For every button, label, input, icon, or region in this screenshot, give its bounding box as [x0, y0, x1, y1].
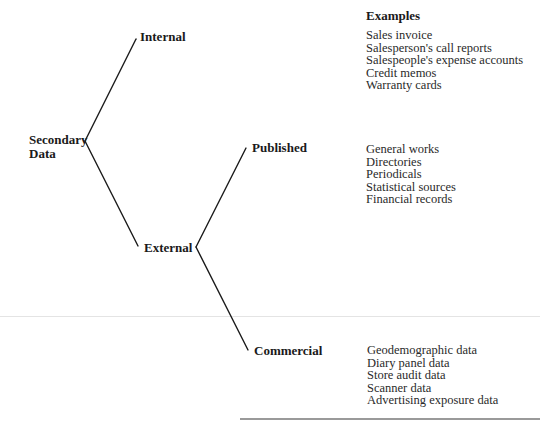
- node-secondary-data-line2: Data: [29, 147, 88, 161]
- connector-root-internal: [85, 39, 136, 141]
- example-item: Store audit data: [367, 369, 498, 382]
- examples-list-internal: Sales invoice Salesperson's call reports…: [366, 29, 523, 92]
- node-secondary-data-line1: Secondary: [29, 133, 88, 147]
- node-published: Published: [252, 141, 307, 155]
- examples-list-published: General works Directories Periodicals St…: [366, 143, 456, 206]
- example-item: Salespeople's expense accounts: [366, 54, 523, 67]
- example-item: General works: [366, 143, 456, 156]
- example-item: Sales invoice: [366, 29, 523, 42]
- example-item: Periodicals: [366, 168, 456, 181]
- node-secondary-data: Secondary Data: [29, 133, 88, 161]
- connector-external-commercial: [196, 247, 248, 350]
- example-item: Advertising exposure data: [367, 394, 498, 407]
- connector-external-published: [196, 148, 246, 247]
- example-item: Warranty cards: [366, 79, 523, 92]
- node-commercial: Commercial: [254, 344, 322, 358]
- examples-list-commercial: Geodemographic data Diary panel data Sto…: [367, 344, 498, 407]
- connector-root-external: [85, 141, 138, 246]
- example-item: Financial records: [366, 193, 456, 206]
- node-internal: Internal: [140, 30, 186, 44]
- examples-heading: Examples: [366, 9, 420, 23]
- node-external: External: [144, 241, 192, 255]
- example-item: Geodemographic data: [367, 344, 498, 357]
